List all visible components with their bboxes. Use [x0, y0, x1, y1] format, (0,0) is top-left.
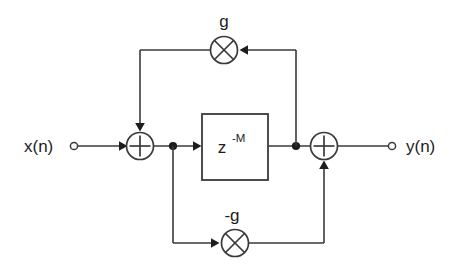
- arrowhead-into-top-multiplier: [240, 45, 249, 55]
- gain-label-top: g: [219, 12, 228, 31]
- arrowhead-into-delay-block: [193, 141, 202, 151]
- input-terminal-icon: [70, 142, 77, 149]
- signal-flow-diagram: x(n) z -M y(n): [0, 0, 466, 278]
- output-label: y(n): [406, 137, 435, 156]
- arrowhead-into-left-adder-top: [135, 123, 145, 132]
- delay-block-exponent-label: -M: [232, 132, 245, 144]
- gain-label-bottom: -g: [224, 206, 239, 225]
- output-terminal-icon: [388, 142, 395, 149]
- input-label: x(n): [24, 137, 53, 156]
- delay-block: [202, 114, 268, 180]
- diagram-canvas: x(n) z -M y(n): [0, 0, 466, 278]
- delay-block-base-label: z: [218, 138, 227, 157]
- arrowhead-into-bottom-multiplier: [211, 238, 220, 248]
- arrowhead-into-right-adder-bottom: [319, 161, 329, 170]
